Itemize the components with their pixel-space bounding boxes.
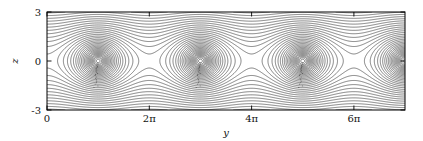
- xtick-label-2pi: 2π: [143, 113, 156, 124]
- ytick-label-0: 0: [35, 56, 41, 67]
- xtick-label-4pi: 4π: [245, 113, 258, 124]
- x-axis-label: y: [222, 127, 229, 138]
- xtick-label-0: 0: [44, 113, 50, 124]
- streamline-plot: 0 2π 4π 6π 3 0 -3 y z: [0, 0, 423, 141]
- xtick-label-6pi: 6π: [347, 113, 360, 124]
- ytick-label-3: 3: [35, 7, 41, 18]
- y-axis-label: z: [9, 58, 20, 65]
- ytick-label-neg3: -3: [31, 105, 41, 116]
- figure-container: 0 2π 4π 6π 3 0 -3 y z: [0, 0, 423, 141]
